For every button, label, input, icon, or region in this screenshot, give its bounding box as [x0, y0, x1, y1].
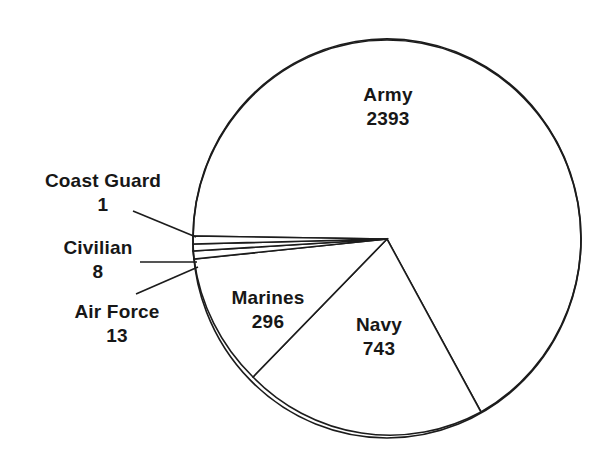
slice-label-civilian-name: Civilian — [38, 236, 158, 260]
pie-chart: Army 2393 Navy 743 Marines 296 Coast Gua… — [0, 0, 616, 461]
slice-label-air-force-value: 13 — [52, 324, 182, 348]
slice-label-army-name: Army — [318, 83, 458, 107]
slice-label-navy-name: Navy — [323, 313, 435, 337]
slice-label-civilian-value: 8 — [38, 260, 158, 284]
slice-label-coast-guard: Coast Guard 1 — [24, 169, 182, 218]
slice-label-army: Army 2393 — [318, 83, 458, 132]
slice-label-civilian: Civilian 8 — [38, 236, 158, 285]
slice-label-marines: Marines 296 — [204, 286, 332, 335]
slice-label-coast-guard-value: 1 — [24, 193, 182, 217]
slice-label-marines-value: 296 — [204, 310, 332, 334]
pie-chart-graphic — [0, 0, 616, 461]
slice-label-air-force-name: Air Force — [52, 300, 182, 324]
slice-label-coast-guard-name: Coast Guard — [24, 169, 182, 193]
slice-label-marines-name: Marines — [204, 286, 332, 310]
slice-label-air-force: Air Force 13 — [52, 300, 182, 349]
slice-label-army-value: 2393 — [318, 107, 458, 131]
slice-label-navy-value: 743 — [323, 337, 435, 361]
slice-label-navy: Navy 743 — [323, 313, 435, 362]
